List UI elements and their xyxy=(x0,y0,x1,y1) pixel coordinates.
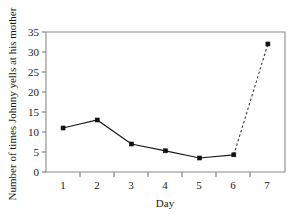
data-point-day-5 xyxy=(198,156,202,160)
line-chart: 35 30 25 20 15 10 5 0 1 2 3 4 5 6 7 xyxy=(0,0,297,215)
data-point-day-2 xyxy=(95,118,99,122)
y-tick-label-35: 35 xyxy=(28,26,40,38)
x-tick-label-7: 7 xyxy=(264,179,270,191)
data-point-day-6 xyxy=(232,153,236,157)
y-tick-label-15: 15 xyxy=(28,106,40,118)
x-tick-label-6: 6 xyxy=(230,179,236,191)
y-tick-label-5: 5 xyxy=(34,146,40,158)
chart-canvas: 35 30 25 20 15 10 5 0 1 2 3 4 5 6 7 xyxy=(0,0,297,215)
x-tick-label-3: 3 xyxy=(128,179,134,191)
x-tick-label-2: 2 xyxy=(94,179,100,191)
data-point-day-7 xyxy=(266,42,270,46)
x-tick-label-1: 1 xyxy=(60,179,66,191)
data-point-day-3 xyxy=(129,142,133,146)
y-tick-label-30: 30 xyxy=(28,46,40,58)
x-axis-title: Day xyxy=(156,197,175,209)
y-axis-title: Number of times Johnny yells at his moth… xyxy=(6,7,18,200)
x-tick-label-5: 5 xyxy=(196,179,202,191)
y-tick-label-25: 25 xyxy=(28,66,40,78)
y-tick-label-10: 10 xyxy=(28,126,40,138)
data-point-day-1 xyxy=(61,126,65,130)
data-point-day-4 xyxy=(164,149,168,153)
x-tick-label-4: 4 xyxy=(162,179,168,191)
y-tick-label-20: 20 xyxy=(28,86,40,98)
y-tick-label-0: 0 xyxy=(34,166,40,178)
